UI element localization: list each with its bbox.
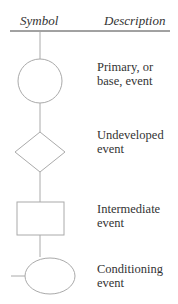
- ellipse-symbol: [25, 258, 75, 294]
- rectangle-symbol: [17, 202, 64, 235]
- header-symbol: Symbol: [20, 14, 58, 28]
- circle-symbol: [18, 59, 62, 103]
- header-description: Description: [104, 14, 165, 28]
- description-conditioning: Conditioning event: [97, 262, 163, 290]
- description-intermediate: Intermediate event: [97, 202, 160, 230]
- description-primary: Primary, or base, event: [97, 60, 153, 88]
- description-undeveloped: Undeveloped event: [97, 128, 164, 156]
- diamond-symbol: [15, 132, 65, 172]
